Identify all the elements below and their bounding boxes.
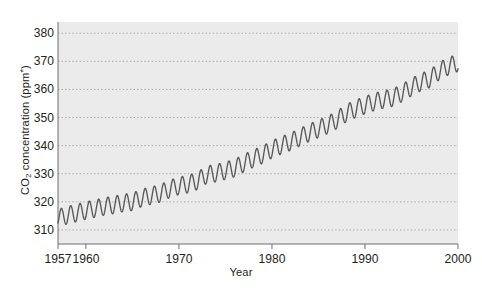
x-tick-label: 1980	[259, 253, 286, 265]
x-axis-tick-labels: 195719601970198019902000	[0, 0, 482, 291]
x-tick-label: 1960	[72, 253, 99, 265]
x-tick-label: 2000	[445, 253, 472, 265]
x-tick-label: 1957	[45, 253, 72, 265]
x-tick-label: 1990	[352, 253, 379, 265]
x-axis-title: Year	[0, 266, 482, 278]
co2-concentration-chart: CO2 concentration (ppm*) 310320330340350…	[0, 0, 482, 291]
x-tick-label: 1970	[165, 253, 192, 265]
